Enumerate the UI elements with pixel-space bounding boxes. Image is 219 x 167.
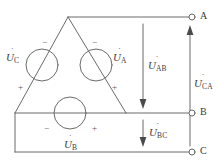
terminal-label-b: B [200, 107, 207, 117]
source-circle-a [80, 49, 112, 81]
arrow-head-ca [187, 25, 194, 35]
overdot-bc: ˙ [156, 122, 159, 131]
voltage-label-ca: ˙UCA [194, 78, 213, 90]
polarity-pos-a: + [112, 83, 117, 92]
terminal-node-a [189, 14, 195, 20]
source-label-c-sub: C [14, 56, 19, 65]
polarity-pos-b: + [92, 124, 97, 133]
voltage-label-ca-sub: CA [202, 82, 213, 91]
overdot-ca: ˙ [202, 73, 205, 82]
overdot-b: ˙ [69, 134, 72, 143]
overdot-c: ˙ [11, 47, 14, 56]
source-label-c: ˙UC [6, 52, 19, 64]
source-label-a: ˙UA [113, 52, 127, 64]
polarity-neg-a: − [92, 38, 97, 47]
delta-leg-left [15, 17, 68, 113]
terminal-label-c: C [200, 146, 207, 156]
circuit-diagram-figure: ˙UC ˙UA ˙UB − + − + − + ˙UAB ˙UBC ˙UCA A [0, 0, 219, 167]
voltage-label-bc: ˙UBC [149, 127, 167, 139]
polarity-pos-c: + [18, 83, 23, 92]
terminal-node-b [189, 110, 195, 116]
arrow-head-bc [140, 137, 147, 147]
polarity-neg-b: − [44, 124, 49, 133]
arrow-head-ab [140, 99, 147, 109]
voltage-label-bc-sub: BC [157, 131, 167, 140]
voltage-label-ab-sub: AB [156, 64, 167, 73]
source-label-b: ˙UB [64, 139, 77, 151]
schematic-drawing [0, 0, 219, 167]
overdot-ab: ˙ [156, 55, 159, 64]
source-label-b-sub: B [72, 143, 77, 152]
source-label-a-sub: A [121, 56, 127, 65]
overdot-a: ˙ [118, 47, 121, 56]
voltage-label-ab: ˙UAB [148, 60, 167, 72]
terminal-node-c [189, 149, 195, 155]
terminal-label-a: A [200, 11, 207, 21]
polarity-neg-c: − [42, 38, 47, 47]
